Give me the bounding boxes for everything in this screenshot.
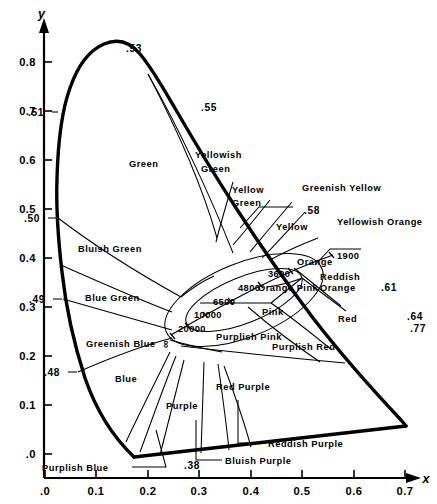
boundary-bluegreen-greenishblue	[63, 299, 172, 330]
wavelength-label-77: .77	[410, 323, 426, 334]
boundary-bluishgreen-bluegreen	[61, 265, 172, 312]
region-label-yellow-green-2: Green	[232, 198, 261, 208]
leader-purplish-blue	[132, 430, 166, 467]
region-label-red-purple: Red Purple	[216, 382, 270, 392]
boundary-greenishyellow-yellow2	[262, 212, 305, 258]
x-tick-label-0: .0	[40, 485, 50, 497]
x-axis-arrow	[406, 473, 421, 483]
y-axis-title: y	[37, 7, 46, 21]
wavelength-label-64: .64	[407, 311, 423, 322]
wavelength-label-48: .48	[44, 367, 60, 378]
region-label-purplish-red: Purplish Red	[272, 342, 335, 352]
region-label-reddish-orange-1: Reddish	[320, 272, 360, 282]
region-label-greenish-blue: Greenish Blue	[86, 339, 156, 349]
planckian-locus-line	[171, 255, 333, 335]
wavelength-label-55: .55	[201, 102, 217, 113]
temp-label-10000: 10000	[194, 310, 222, 320]
wavelength-label-50: .50	[24, 213, 40, 224]
boundary-green-bluishgreen	[58, 218, 181, 297]
temp-label-1900: 1900	[337, 251, 359, 261]
leader-reddish-purple	[238, 400, 265, 443]
region-labels: Green Yellowish Green Yellow Green Green…	[42, 150, 423, 473]
x-tick-label-5: 0.5	[294, 485, 311, 497]
wavelength-label-58: .58	[304, 205, 320, 216]
boundary-green-lower	[181, 276, 214, 297]
x-tick-label-3: 0.3	[191, 485, 208, 497]
x-tick-label-7: 0.7	[397, 485, 414, 497]
region-label-yellowish-green-2: Green	[201, 164, 230, 174]
y-tick-label-0: .0	[26, 448, 36, 460]
wavelength-label-53: .53	[126, 43, 142, 54]
region-label-yellowish-orange: Yellowish Orange	[337, 217, 423, 227]
region-label-purplish-pink: Purplish Pink	[216, 332, 282, 342]
region-label-blue-green: Blue Green	[85, 293, 140, 303]
y-tick-label-1: 0.1	[19, 399, 36, 411]
temp-label-4800: 4800	[238, 283, 260, 293]
x-tick-label-4: 0.4	[243, 485, 260, 497]
region-label-bluish-green: Bluish Green	[78, 244, 142, 254]
region-label-bluish-purple: Bluish Purple	[225, 456, 291, 466]
x-tick-label-6: 0.6	[346, 485, 363, 497]
wavelength-label-38: .38	[184, 460, 200, 471]
boundary-reddishpurple-redpurple	[218, 364, 229, 450]
region-label-pink: Pink	[262, 307, 284, 317]
wavelength-label-51: .51	[28, 107, 44, 118]
x-tick-label-2: 0.2	[140, 485, 157, 497]
region-label-orange-pink: Orange Pink	[258, 283, 319, 293]
y-tick-label-6: 0.6	[19, 154, 36, 166]
y-tick-label-4: 0.4	[19, 252, 36, 264]
boundary-purple-reddishpurple	[201, 362, 204, 453]
y-tick-label-8: 0.8	[19, 56, 36, 68]
wavelength-labels: .38 .48 .49 .50 .51 .53 .55 .58 .61 .64 …	[24, 43, 426, 471]
region-label-reddish-orange-2: Orange	[320, 283, 356, 293]
region-label-greenish-yellow: Greenish Yellow	[302, 183, 381, 193]
cie-chart-svg: .0 0.1 0.2 0.3 0.4 0.5 0.6 0.7 0.8 .0 0.…	[0, 0, 437, 504]
region-label-green: Green	[129, 159, 158, 169]
temp-label-20000: 20000	[178, 324, 206, 334]
region-label-orange: Orange	[297, 257, 333, 267]
region-label-red: Red	[338, 314, 357, 324]
boundary-blue-purplishblue	[126, 352, 170, 442]
wavelength-label-49: .49	[29, 294, 45, 305]
y-ticks	[44, 62, 52, 454]
x-tick-label-1: 0.1	[88, 485, 105, 497]
region-label-yellow: Yellow	[276, 222, 308, 232]
region-label-reddish-purple: Reddish Purple	[268, 439, 343, 449]
region-label-purplish-blue: Purplish Blue	[42, 463, 108, 473]
temp-label-infinity: ∞	[159, 340, 171, 348]
leader-bluish-purple	[196, 420, 222, 460]
region-label-yellow-green-1: Yellow	[232, 185, 264, 195]
temp-label-6500: 6500	[213, 297, 235, 307]
wavelength-label-61: .61	[381, 282, 397, 293]
temp-label-3600: 3600	[268, 269, 290, 279]
chromaticity-diagram: .0 0.1 0.2 0.3 0.4 0.5 0.6 0.7 0.8 .0 0.…	[0, 0, 437, 504]
region-label-yellowish-green-1: Yellowish	[195, 150, 242, 160]
region-label-purple: Purple	[166, 401, 198, 411]
y-tick-label-2: 0.2	[19, 350, 36, 362]
x-axis-title: x	[422, 472, 431, 486]
region-label-blue: Blue	[115, 374, 137, 384]
